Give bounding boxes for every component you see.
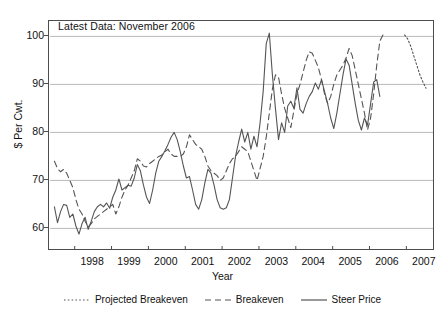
y-tick-label: 100 — [4, 30, 44, 40]
y-tick-label: 90 — [4, 78, 44, 88]
x-tick-label: 2007 — [404, 255, 444, 267]
chart-page: $ Per Cwt. 60708090100 Latest Data: Nove… — [0, 0, 445, 315]
latest-data-annotation: Latest Data: November 2006 — [58, 20, 195, 32]
x-tick-label: 2005 — [330, 255, 370, 267]
y-tick-label: 70 — [4, 174, 44, 184]
plot-area — [48, 20, 434, 250]
x-tick-label: 2004 — [293, 255, 333, 267]
legend-line-sample — [64, 296, 90, 304]
x-tick-label: 2001 — [183, 255, 223, 267]
legend-item-steer-price: Steer Price — [301, 294, 381, 305]
series-line-breakeven — [54, 35, 382, 227]
chart-svg — [49, 21, 433, 249]
x-tick-label: 1999 — [109, 255, 149, 267]
x-axis-title: Year — [0, 270, 445, 282]
legend-line-sample — [205, 296, 231, 304]
legend-item-breakeven: Breakeven — [205, 294, 284, 305]
y-tick-label: 80 — [4, 126, 44, 136]
legend-label: Steer Price — [332, 294, 381, 305]
x-tick-label: 1998 — [72, 255, 112, 267]
y-tick-label: 60 — [4, 222, 44, 232]
legend-label: Projected Breakeven — [95, 294, 188, 305]
x-tick-label: 2003 — [256, 255, 296, 267]
legend-label: Breakeven — [236, 294, 284, 305]
series-line-steer-price — [54, 33, 379, 234]
x-tick-label: 2002 — [220, 255, 260, 267]
chart-legend: Projected BreakevenBreakevenSteer Price — [0, 294, 445, 305]
x-tick-label: 2006 — [367, 255, 407, 267]
legend-item-projected-breakeven: Projected Breakeven — [64, 294, 188, 305]
series-line-projected-breakeven — [405, 35, 426, 88]
legend-line-sample — [301, 296, 327, 304]
x-tick-label: 2000 — [146, 255, 186, 267]
